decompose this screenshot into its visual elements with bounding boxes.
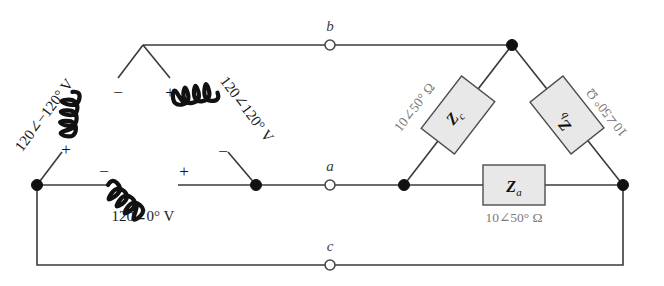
wire-source-ab-lower xyxy=(37,152,62,185)
sign-bc-minus: − xyxy=(218,142,228,161)
wire-source-bc-upper xyxy=(143,45,170,78)
terminal-c[interactable]: c xyxy=(325,238,335,270)
source-phase-ab: − + 120∠−120° V xyxy=(12,45,143,185)
terminal-node-a[interactable] xyxy=(325,180,335,190)
impedance-value-za: 10∠50° Ω xyxy=(485,210,542,225)
node-source-bottom-left xyxy=(32,180,43,191)
source-phase-ca: − + 120∠0° V xyxy=(37,162,256,224)
load-branch-zb: Zb 10∠50° Ω xyxy=(512,45,630,185)
sign-ab-plus: + xyxy=(61,140,71,159)
wire-source-ab-upper xyxy=(118,45,143,78)
sign-ab-minus: − xyxy=(113,83,123,102)
terminal-node-c[interactable] xyxy=(325,260,335,270)
node-source-bottom-right xyxy=(251,180,262,191)
source-label-bc: 120∠120° V xyxy=(217,73,277,145)
terminal-label-c: c xyxy=(327,238,334,254)
node-load-top xyxy=(507,40,518,51)
inductor-coil-bc xyxy=(168,71,220,123)
terminal-node-b[interactable] xyxy=(325,40,335,50)
sign-ca-plus: + xyxy=(179,162,189,181)
circuit-schematic: − + 120∠−120° V + − 120∠120° V − + 120∠0… xyxy=(0,0,664,286)
sign-ca-minus: − xyxy=(99,162,109,181)
terminal-label-a: a xyxy=(326,158,334,174)
circuit-diagram-canvas: − + 120∠−120° V + − 120∠120° V − + 120∠0… xyxy=(0,0,664,286)
load-branch-za: Za 10∠50° Ω xyxy=(404,165,623,225)
wire-source-bc-lower xyxy=(228,152,256,185)
terminal-label-b: b xyxy=(326,18,334,34)
load-branch-zc: Zc 10∠50° Ω xyxy=(391,45,512,185)
sign-bc-plus: + xyxy=(165,83,175,102)
node-load-bottom-left xyxy=(399,180,410,191)
node-load-bottom-right xyxy=(618,180,629,191)
terminal-a[interactable]: a xyxy=(325,158,335,190)
source-label-ca: 120∠0° V xyxy=(112,208,175,224)
terminal-b[interactable]: b xyxy=(325,18,335,50)
source-phase-bc: + − 120∠120° V xyxy=(143,45,277,185)
